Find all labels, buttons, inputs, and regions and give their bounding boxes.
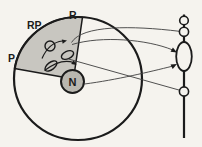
label-sector: RP — [27, 19, 42, 31]
ray-to-lower-image — [69, 59, 180, 90]
lens — [176, 42, 192, 71]
image-dot-top — [180, 16, 189, 25]
label-top-radius: R — [69, 9, 77, 21]
figure: N RP R P — [0, 0, 202, 147]
nucleus-label: N — [69, 76, 77, 88]
image-dot-bottom — [179, 87, 188, 96]
ray-to-lens-top — [72, 40, 172, 50]
image-dot-second — [179, 27, 188, 36]
ray-to-lens-bottom — [85, 66, 173, 84]
label-left-radius: P — [8, 52, 15, 64]
